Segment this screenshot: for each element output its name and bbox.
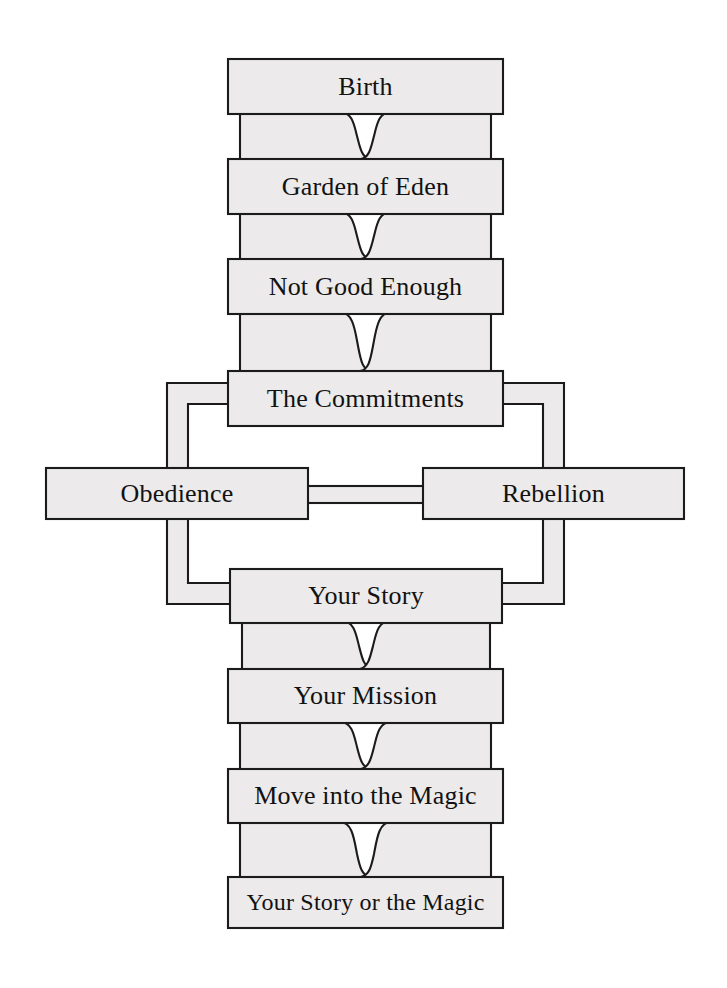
branch-commitments-to-obedience: [167, 383, 229, 469]
node-box-move-magic[interactable]: [228, 769, 503, 823]
node-box-your-mission[interactable]: [228, 669, 503, 723]
connector-move-magic-to-story-magic-right: [361, 822, 491, 877]
node-box-garden[interactable]: [228, 159, 503, 214]
node-box-commitments[interactable]: [228, 371, 503, 426]
node-box-obedience[interactable]: [46, 468, 308, 519]
connector-garden-to-not-good: [240, 212, 370, 259]
node-box-your-story[interactable]: [230, 569, 502, 623]
connector-mission-to-move-magic: [240, 722, 370, 769]
flowchart-canvas: [0, 0, 727, 988]
connector-mission-to-move-magic-right: [361, 722, 491, 769]
connector-story-to-mission-right: [360, 621, 490, 669]
connector-story-to-mission: [242, 621, 372, 669]
connector-birth-to-garden: [240, 112, 370, 159]
branch-rebellion-to-your-story: [500, 518, 564, 604]
branch-obedience-rebellion-link: [307, 486, 424, 503]
flowchart-diagram: Birth Garden of Eden Not Good Enough The…: [0, 0, 727, 988]
branch-obedience-to-your-story: [167, 518, 231, 604]
connector-garden-to-not-good-right: [361, 212, 491, 259]
node-box-story-magic[interactable]: [228, 877, 503, 928]
node-box-birth[interactable]: [228, 59, 503, 114]
node-box-not-good[interactable]: [228, 259, 503, 314]
connector-not-good-to-commitments: [240, 312, 371, 371]
connector-move-magic-to-story-magic: [240, 822, 370, 877]
connector-birth-to-garden-right: [361, 112, 491, 159]
node-box-rebellion[interactable]: [423, 468, 684, 519]
connector-not-good-to-commitments-right: [360, 312, 491, 371]
branch-commitments-to-rebellion: [502, 383, 564, 469]
